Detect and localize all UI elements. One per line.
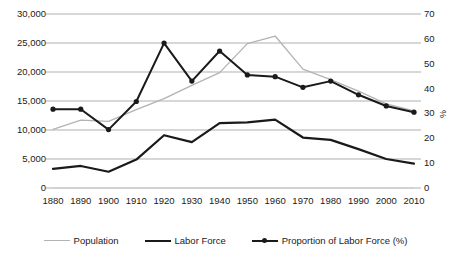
x-axis-tick-label: 2010	[399, 196, 429, 206]
series-group	[50, 36, 416, 172]
data-point-marker	[78, 107, 83, 112]
y-axis-left-tick-label: 0	[2, 183, 46, 193]
y-axis-left-tick-label: 20,000	[2, 67, 46, 77]
x-axis-tick-label: 2000	[371, 196, 401, 206]
data-point-marker	[300, 85, 305, 90]
x-axis-tick-label: 1960	[260, 196, 290, 206]
x-axis-tick-label: 1980	[316, 196, 346, 206]
legend-item[interactable]: Population	[44, 236, 119, 246]
x-axis-tick-label: 1880	[38, 196, 68, 206]
chart-plot-area	[0, 0, 451, 264]
chart-legend: PopulationLabor ForceProportion of Labor…	[0, 236, 451, 246]
x-axis-tick-label: 1970	[288, 196, 318, 206]
legend-swatch-icon	[145, 236, 171, 246]
data-point-marker	[356, 92, 361, 97]
y-axis-right-tick-label: 0	[424, 183, 448, 193]
data-point-marker	[411, 110, 416, 115]
data-point-marker	[50, 107, 55, 112]
legend-label: Labor Force	[175, 236, 226, 246]
data-point-marker	[217, 48, 222, 53]
y-axis-right-title: %	[438, 110, 448, 118]
y-axis-left-tick-label: 10,000	[2, 125, 46, 135]
x-axis-tick-label: 1910	[121, 196, 151, 206]
data-point-marker	[134, 99, 139, 104]
y-axis-left-tick-label: 30,000	[2, 9, 46, 19]
y-axis-right-tick-label: 20	[424, 133, 448, 143]
legend-item[interactable]: Labor Force	[145, 236, 226, 246]
y-axis-right-tick-label: 70	[424, 9, 448, 19]
y-axis-left-tick-label: 25,000	[2, 38, 46, 48]
y-axis-right-tick-label: 10	[424, 158, 448, 168]
x-axis-tick-label: 1930	[177, 196, 207, 206]
series-line	[53, 43, 414, 130]
legend-label: Population	[74, 236, 119, 246]
legend-item[interactable]: Proportion of Labor Force (%)	[252, 236, 408, 246]
data-point-marker	[161, 40, 166, 45]
y-axis-left-tick-label: 15,000	[2, 96, 46, 106]
data-point-marker	[328, 79, 333, 84]
data-point-marker	[384, 103, 389, 108]
legend-swatch-icon	[44, 236, 70, 246]
chart-container: 05,00010,00015,00020,00025,00030,000 010…	[0, 0, 451, 264]
x-axis-tick-label: 1950	[232, 196, 262, 206]
x-axis-tick-label: 1990	[343, 196, 373, 206]
x-axis-tick-label: 1920	[149, 196, 179, 206]
data-point-marker	[245, 72, 250, 77]
x-axis-tick-label: 1940	[205, 196, 235, 206]
data-point-marker	[106, 127, 111, 132]
y-axis-right-tick-label: 60	[424, 34, 448, 44]
legend-label: Proportion of Labor Force (%)	[282, 236, 408, 246]
data-point-marker	[273, 74, 278, 79]
x-axis-tick-label: 1900	[94, 196, 124, 206]
x-axis-tick-label: 1890	[66, 196, 96, 206]
data-point-marker	[189, 79, 194, 84]
y-axis-right-tick-label: 50	[424, 59, 448, 69]
gridlines-group	[46, 14, 421, 188]
legend-swatch-icon	[252, 236, 278, 246]
y-axis-left-tick-label: 5,000	[2, 154, 46, 164]
y-axis-right-tick-label: 40	[424, 84, 448, 94]
series-line	[53, 36, 414, 129]
